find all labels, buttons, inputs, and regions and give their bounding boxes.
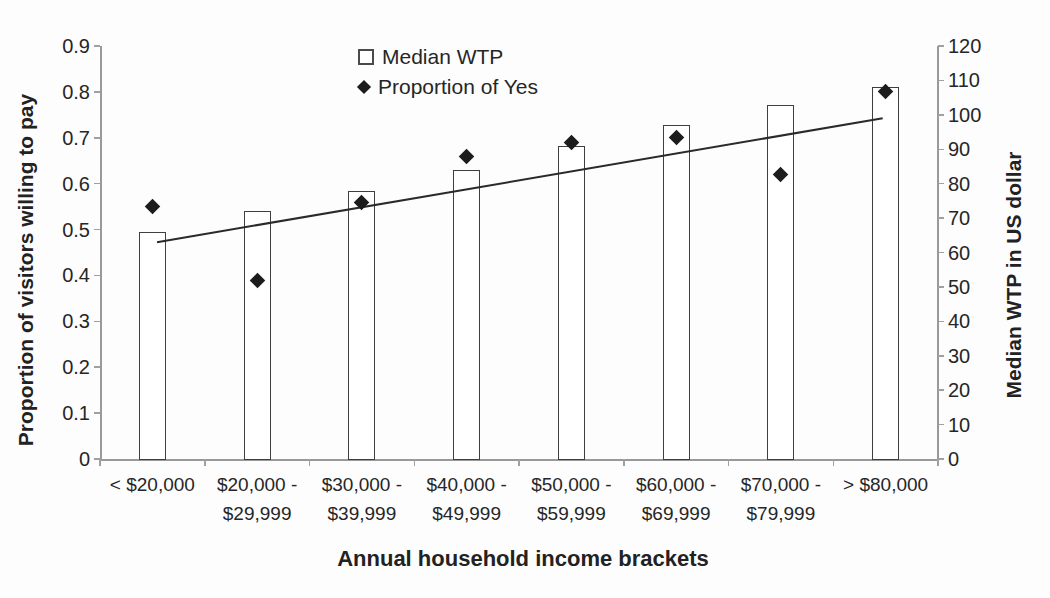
y-tick-label-right: 90 [948, 139, 1000, 159]
y-axis-title-left: Proportion of visitors willing to pay [14, 94, 38, 446]
y-axis-left-tick [94, 45, 100, 47]
y-axis-right-tick [938, 424, 944, 426]
y-tick-label-right: 60 [948, 243, 1000, 263]
y-tick-label-right: 80 [948, 174, 1000, 194]
y-tick-label-right: 10 [948, 415, 1000, 435]
x-category-label-line: > $80,000 [828, 470, 944, 499]
y-axis-right-tick [938, 80, 944, 82]
x-axis-tick [623, 459, 625, 466]
x-category-label-line: $79,999 [723, 499, 839, 528]
x-category-label: $20,000 -$29,999 [199, 470, 315, 528]
y-tick-label-right: 70 [948, 208, 1000, 228]
y-tick-label-right: 120 [948, 36, 1000, 56]
y-tick-label-left: 0 [38, 449, 90, 469]
y-axis-right-tick [938, 458, 944, 460]
y-tick-label-right: 0 [948, 449, 1000, 469]
y-axis-right-tick [938, 355, 944, 357]
bar-median-wtp [453, 170, 480, 460]
legend-item-proportion-yes: Proportion of Yes [358, 72, 538, 102]
legend-item-median-wtp: Median WTP [358, 42, 538, 72]
y-axis-right-tick [938, 114, 944, 116]
x-category-label: $60,000 -$69,999 [618, 470, 734, 528]
y-axis-left-tick [94, 366, 100, 368]
x-category-label-line: $59,999 [513, 499, 629, 528]
y-tick-label-left: 0.7 [38, 128, 90, 148]
y-tick-label-left: 0.1 [38, 403, 90, 423]
y-axis-right-tick [938, 252, 944, 254]
y-axis-left-tick [94, 229, 100, 231]
y-tick-label-left: 0.6 [38, 174, 90, 194]
y-axis-right-tick [938, 286, 944, 288]
bar-median-wtp [244, 211, 271, 460]
x-category-label-line: $40,000 - [409, 470, 525, 499]
y-axis-left [100, 46, 102, 460]
y-axis-left-tick [94, 183, 100, 185]
x-category-label-line: $20,000 - [199, 470, 315, 499]
proportion-yes-marker [145, 199, 161, 215]
y-tick-label-left: 0.8 [38, 82, 90, 102]
y-tick-label-right: 110 [948, 70, 1000, 90]
x-axis-tick [833, 459, 835, 466]
y-axis-right-tick [938, 389, 944, 391]
y-axis-left-tick [94, 275, 100, 277]
y-axis-title-right: Median WTP in US dollar [1002, 152, 1026, 399]
y-axis-right-tick [938, 149, 944, 151]
legend-label-median-wtp: Median WTP [382, 45, 503, 69]
legend: Median WTP Proportion of Yes [358, 42, 538, 102]
y-tick-label-left: 0.2 [38, 357, 90, 377]
y-axis-right-tick [938, 45, 944, 47]
y-axis-left-tick [94, 321, 100, 323]
bar-median-wtp [767, 105, 794, 460]
x-category-label: < $20,000 [94, 470, 210, 499]
y-axis-left-tick [94, 137, 100, 139]
x-category-label-line: $39,999 [304, 499, 420, 528]
x-category-label-line: $49,999 [409, 499, 525, 528]
legend-label-proportion-yes: Proportion of Yes [378, 75, 538, 99]
x-axis-tick [204, 459, 206, 466]
x-category-label: $40,000 -$49,999 [409, 470, 525, 528]
y-tick-label-left: 0.3 [38, 311, 90, 331]
y-tick-label-right: 30 [948, 346, 1000, 366]
bar-median-wtp [139, 232, 166, 460]
y-tick-label-right: 40 [948, 311, 1000, 331]
x-axis-tick [309, 459, 311, 466]
x-category-label: $30,000 -$39,999 [304, 470, 420, 528]
y-axis-right-tick [938, 183, 944, 185]
y-axis-left-tick [94, 412, 100, 414]
bar-median-wtp [872, 87, 899, 460]
y-tick-label-right: 20 [948, 380, 1000, 400]
y-tick-label-right: 50 [948, 277, 1000, 297]
x-category-label-line: $30,000 - [304, 470, 420, 499]
open-square-icon [358, 49, 374, 65]
x-category-label-line: $69,999 [618, 499, 734, 528]
y-tick-label-left: 0.4 [38, 265, 90, 285]
x-axis-tick [728, 459, 730, 466]
x-category-label: > $80,000 [828, 470, 944, 499]
y-tick-label-left: 0.5 [38, 220, 90, 240]
x-category-label-line: $50,000 - [513, 470, 629, 499]
bar-median-wtp [348, 191, 375, 460]
x-category-label: $50,000 -$59,999 [513, 470, 629, 528]
filled-diamond-icon [357, 80, 371, 94]
chart-figure: Median WTP Proportion of Yes Proportion … [0, 0, 1050, 598]
x-category-label-line: $60,000 - [618, 470, 734, 499]
x-category-label-line: $29,999 [199, 499, 315, 528]
x-axis-tick [937, 459, 939, 466]
y-axis-right-tick [938, 321, 944, 323]
x-axis-tick [414, 459, 416, 466]
x-category-label-line: < $20,000 [94, 470, 210, 499]
y-tick-label-right: 100 [948, 105, 1000, 125]
x-category-label-line: $70,000 - [723, 470, 839, 499]
bar-median-wtp [558, 146, 585, 460]
x-axis-tick [518, 459, 520, 466]
y-axis-left-tick [94, 91, 100, 93]
y-tick-label-left: 0.9 [38, 36, 90, 56]
y-axis-right-tick [938, 217, 944, 219]
bar-median-wtp [663, 125, 690, 460]
x-axis-tick [99, 459, 101, 466]
x-category-label: $70,000 -$79,999 [723, 470, 839, 528]
proportion-yes-marker [459, 148, 475, 164]
x-axis-title: Annual household income brackets [337, 546, 709, 572]
